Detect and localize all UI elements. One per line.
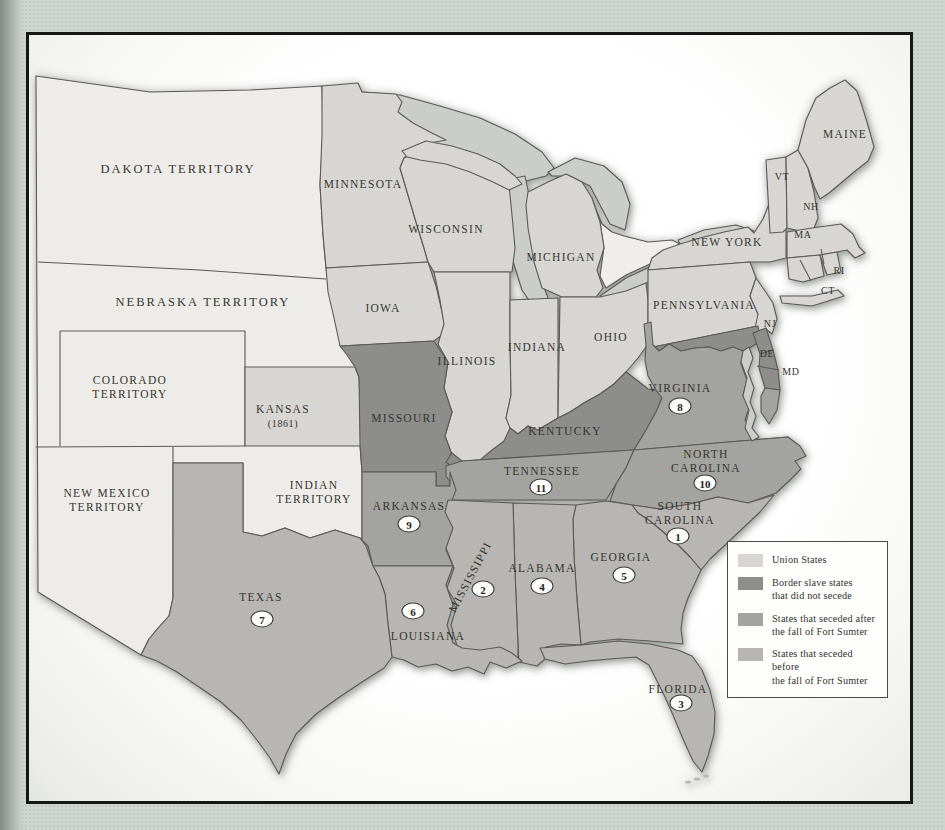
legend-item-seceded_before: States that seceded before the fall of F… <box>738 647 878 687</box>
book-gutter-shading <box>0 0 26 830</box>
legend-label-seceded_before: States that seceded before the fall of F… <box>772 647 878 687</box>
legend-item-union: Union States <box>738 553 878 567</box>
legend-item-seceded_after: States that seceded after the fall of Fo… <box>738 612 878 639</box>
legend-swatch-border_slave <box>738 577 763 590</box>
book-page: { "palette": { "territory": "#edece8", "… <box>0 0 945 830</box>
legend-swatch-union <box>738 554 763 567</box>
legend-label-seceded_after: States that seceded after the fall of Fo… <box>772 612 875 639</box>
legend-label-border_slave: Border slave states that did not secede <box>772 576 853 603</box>
legend-item-border_slave: Border slave states that did not secede <box>738 576 878 603</box>
legend-swatch-seceded_before <box>738 648 763 661</box>
legend-rows: Union StatesBorder slave states that did… <box>738 553 878 687</box>
legend-label-union: Union States <box>772 553 827 566</box>
map-legend: Union StatesBorder slave states that did… <box>727 541 888 698</box>
legend-swatch-seceded_after <box>738 613 763 626</box>
